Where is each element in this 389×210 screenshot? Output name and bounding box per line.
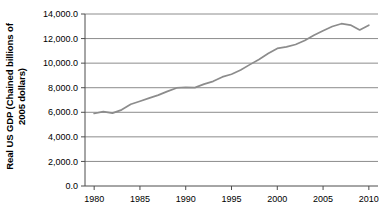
y-tick-label: 14,000.0	[43, 9, 78, 19]
y-tick-label: 6,000.0	[48, 107, 78, 117]
y-tick-label: 10,000.0	[43, 58, 78, 68]
x-tick-label: 1990	[176, 194, 196, 204]
y-tick-label: 12,000.0	[43, 34, 78, 44]
y-tick-label: 0.0	[65, 181, 78, 191]
x-tick-labels-group: 1980198519901995200020052010	[84, 194, 379, 204]
y-tick-marks-group	[81, 14, 85, 186]
gridlines-group	[85, 14, 378, 161]
y-tick-label: 4,000.0	[48, 132, 78, 142]
y-tick-label: 2,000.0	[48, 157, 78, 167]
x-tick-label: 1980	[84, 194, 104, 204]
chart-plot-area: 0.02,000.04,000.06,000.08,000.010,000.01…	[0, 0, 389, 210]
data-series-line	[94, 24, 369, 114]
x-tick-label: 2010	[359, 194, 379, 204]
x-tick-label: 1995	[221, 194, 241, 204]
y-tick-label: 8,000.0	[48, 83, 78, 93]
x-tick-label: 1985	[130, 194, 150, 204]
gdp-line-chart: Real US GDP (Chained billions of 2005 do…	[0, 0, 389, 210]
x-tick-label: 2000	[267, 194, 287, 204]
y-tick-labels-group: 0.02,000.04,000.06,000.08,000.010,000.01…	[43, 9, 78, 191]
x-tick-label: 2005	[313, 194, 333, 204]
x-tick-marks-group	[94, 186, 369, 190]
